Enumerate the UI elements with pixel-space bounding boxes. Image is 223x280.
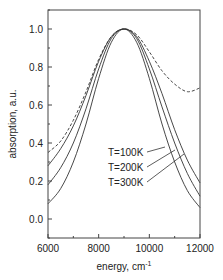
x-tick-label: 6000 — [37, 243, 60, 254]
series-line-experiment — [48, 29, 200, 153]
x-axis-title: energy, cm-1 — [97, 260, 152, 272]
legend-pointer-line — [147, 147, 165, 152]
y-tick-label: 0.8 — [29, 62, 43, 73]
y-tick-label: 0.6 — [29, 100, 43, 111]
y-axis-title: absorption, a.u. — [7, 90, 18, 159]
y-tick-label: 0.0 — [29, 214, 43, 225]
x-tick-label: 12000 — [186, 243, 214, 254]
absorption-chart: 600080001000012000 0.00.20.40.60.81.0 T=… — [0, 0, 223, 280]
plot-frame — [48, 10, 200, 238]
legend-pointer-line — [147, 154, 184, 182]
x-axis-ticks: 600080001000012000 — [37, 234, 214, 254]
x-tick-label: 8000 — [88, 243, 111, 254]
series-line-t-300k — [48, 29, 200, 183]
y-tick-label: 1.0 — [29, 24, 43, 35]
y-tick-label: 0.4 — [29, 138, 43, 149]
legend-label-t-100k: T=100K — [108, 147, 144, 158]
y-tick-label: 0.2 — [29, 176, 43, 187]
x-tick-label: 10000 — [135, 243, 163, 254]
legend: T=100KT=200KT=300K — [108, 147, 184, 188]
legend-label-t-200k: T=200K — [108, 162, 144, 173]
legend-label-t-300k: T=300K — [108, 177, 144, 188]
